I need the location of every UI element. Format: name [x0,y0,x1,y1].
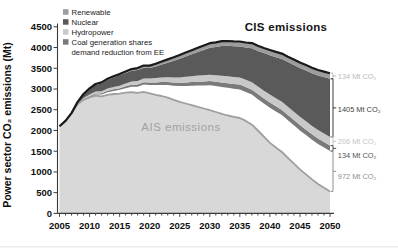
legend-swatch-hydropower [63,29,69,35]
x-tick-label: 2015 [109,220,131,231]
y-tick-label: 3000 [31,83,52,94]
legend-swatch-nuclear [63,19,69,25]
x-tick-label: 2030 [199,220,220,231]
legend-label-coal-generation-shares: Coal generation shares [72,38,153,47]
ais-emissions-label: AIS emissions [141,121,220,133]
x-tick-label: 2045 [289,220,311,231]
legend-label-nuclear: Nuclear [72,18,99,27]
legend-label-renewable: Renewable [72,8,111,17]
scan-artifact [0,246,398,248]
y-tick-label: 500 [36,187,52,198]
bracket-hydropower [331,137,333,146]
x-tick-label: 2025 [169,220,191,231]
cis-emissions-label: CIS emissions [245,21,328,33]
y-tick-label: 2000 [31,125,52,136]
annotation-renewable: 134 Mt CO₂ [338,72,377,81]
y-tick-label: 3500 [31,63,52,74]
annotation-hydropower: 206 Mt CO₂ [338,137,377,146]
y-tick-label: 2500 [31,104,52,115]
bracket-nuclear [331,79,333,137]
legend-wrap-line: demand reduction from EE [72,48,165,57]
x-tick-label: 2050 [319,220,340,231]
annotation-demand-reduction-from-ee: 972 Mt CO₂ [338,172,377,181]
emissions-chart: 0500100015002000250030003500400045002005… [0,0,398,250]
legend-label-hydropower: Hydropower [72,28,114,37]
x-tick-label: 2005 [49,220,71,231]
x-tick-label: 2010 [79,220,100,231]
y-tick-label: 1500 [31,146,52,157]
annotation-coal-generation-shares: 134 Mt CO₂ [338,151,377,160]
y-axis-title: Power sector CO₂ emissions (Mt) [1,42,13,208]
x-tick-label: 2035 [229,220,251,231]
legend-swatch-coal-generation-shares [63,39,69,45]
bracket-renewable [331,73,333,79]
bracket-coal-generation-shares [331,146,333,152]
y-tick-label: 0 [47,208,52,219]
y-tick-label: 4000 [31,42,52,53]
annotation-nuclear: 1405 Mt CO₂ [338,105,381,114]
y-tick-label: 1000 [31,166,52,177]
legend-swatch-renewable [63,9,69,15]
y-tick-label: 4500 [31,21,52,32]
x-tick-label: 2040 [259,220,280,231]
x-tick-label: 2020 [139,220,160,231]
figure-power-sector-co2: 0500100015002000250030003500400045002005… [0,0,398,250]
bracket-demand-reduction-from-ee [331,151,333,191]
